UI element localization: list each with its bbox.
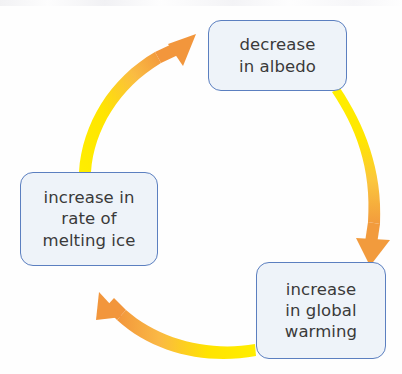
node-increase-in-rate-of-melting-ice: increase in rate of melting ice xyxy=(20,172,158,266)
feedback-loop-diagram: decrease in albedo increase in rate of m… xyxy=(0,0,402,374)
arrow-warming-to-melting xyxy=(96,292,256,359)
arrow-melting-to-albedo xyxy=(79,34,196,172)
node-label: increase in global warming xyxy=(279,279,363,342)
node-label: increase in rate of melting ice xyxy=(37,187,142,250)
node-increase-in-global-warming: increase in global warming xyxy=(256,262,386,359)
node-decrease-in-albedo: decrease in albedo xyxy=(208,20,347,91)
arrow-albedo-to-warming xyxy=(332,88,390,266)
node-label: decrease in albedo xyxy=(233,34,322,76)
